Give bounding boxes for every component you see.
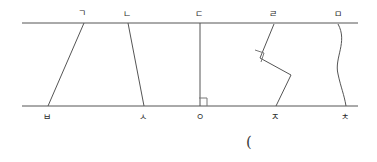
label-chieut: ㅊ bbox=[341, 113, 349, 122]
label-jieut: ㅈ bbox=[271, 113, 279, 122]
label-rieul: ㄹ bbox=[269, 10, 277, 19]
parallel-lines-group bbox=[22, 23, 358, 106]
label-siot: ㅅ bbox=[139, 113, 147, 122]
segment-mieum-chieut bbox=[337, 24, 346, 106]
figure-canvas: ㄱ ㄴ ㄷ ㄹ ㅁ ㅂ ㅅ ㅇ ㅈ ㅊ ( bbox=[0, 0, 377, 162]
label-nieun: ㄴ bbox=[123, 10, 131, 19]
geometry-figure bbox=[0, 0, 377, 162]
open-parenthesis-mark: ( bbox=[246, 135, 252, 150]
connectors-group bbox=[48, 23, 346, 106]
segment-nieun-siot bbox=[128, 23, 144, 106]
segment-rieul-jieut bbox=[260, 24, 291, 106]
label-digeut: ㄷ bbox=[195, 10, 203, 19]
label-mieum: ㅁ bbox=[334, 10, 342, 19]
right-angle-marks-group bbox=[199, 50, 264, 106]
label-ieung: ㅇ bbox=[196, 113, 204, 122]
segment-giyeok-bieup bbox=[48, 23, 84, 106]
label-bieup: ㅂ bbox=[43, 113, 51, 122]
label-giyeok: ㄱ bbox=[78, 9, 86, 18]
